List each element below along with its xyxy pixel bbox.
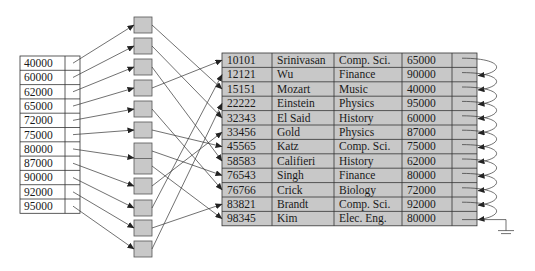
record-name: Einstein — [277, 97, 315, 109]
record-id: 83821 — [227, 198, 256, 210]
record-name: Kim — [277, 212, 298, 224]
bucket — [134, 101, 152, 117]
record-name: El Said — [277, 112, 311, 124]
record-dept: Music — [339, 83, 368, 95]
index-key: 75000 — [24, 129, 53, 141]
bucket — [134, 59, 152, 75]
record-dept: History — [339, 112, 374, 125]
record-salary: 80000 — [407, 169, 436, 181]
instructor-file-table: 10101SrinivasanComp. Sci.6500012121WuFin… — [222, 53, 477, 226]
record-salary: 80000 — [407, 212, 436, 224]
index-key: 72000 — [24, 114, 53, 126]
record-name: Califieri — [277, 155, 315, 167]
index-key: 80000 — [24, 143, 53, 155]
bucket — [134, 220, 152, 236]
index-entry: 40000 — [24, 57, 53, 69]
record-dept: Finance — [339, 68, 375, 80]
record-id: 45565 — [227, 140, 256, 152]
index-entry: 75000 — [24, 129, 53, 141]
record-salary: 87000 — [407, 126, 436, 138]
bucket — [134, 241, 152, 257]
record-name: Gold — [277, 126, 300, 138]
record-id: 76766 — [227, 184, 256, 196]
bucket — [134, 200, 152, 216]
record-dept: Comp. Sci. — [339, 140, 391, 153]
record-salary: 75000 — [407, 140, 436, 152]
index-entry: 87000 — [24, 157, 53, 169]
bucket — [134, 17, 152, 33]
index-key: 40000 — [24, 57, 53, 69]
index-entry: 90000 — [24, 171, 53, 183]
record-dept: Elec. Eng. — [339, 212, 387, 225]
record-id: 32343 — [227, 112, 256, 124]
index-key: 92000 — [24, 186, 53, 198]
record-salary: 60000 — [407, 112, 436, 124]
index-entry: 65000 — [24, 100, 53, 112]
secondary-index-table: 4000060000620006500072000750008000087000… — [20, 56, 80, 213]
index-entry: 92000 — [24, 186, 53, 198]
index-entry: 60000 — [24, 71, 53, 83]
bucket-group — [134, 17, 152, 257]
record-id: 58583 — [227, 155, 256, 167]
record-name: Katz — [277, 140, 299, 152]
index-key: 90000 — [24, 171, 53, 183]
record-dept: Physics — [339, 97, 375, 110]
bucket — [134, 122, 152, 138]
record-salary: 92000 — [407, 198, 436, 210]
record-name: Mozart — [277, 83, 311, 95]
index-key: 95000 — [24, 200, 53, 212]
record-salary: 62000 — [407, 155, 436, 167]
record-dept: History — [339, 155, 374, 168]
record-name: Srinivasan — [277, 54, 326, 66]
record-id: 10101 — [227, 54, 256, 66]
index-key: 62000 — [24, 86, 53, 98]
index-key: 87000 — [24, 157, 53, 169]
record-salary: 95000 — [407, 97, 436, 109]
index-key: 65000 — [24, 100, 53, 112]
record-id: 12121 — [227, 68, 256, 80]
record-dept: Biology — [339, 184, 376, 197]
record-dept: Comp. Sci. — [339, 198, 391, 211]
record-id: 15151 — [227, 83, 256, 95]
record-salary: 72000 — [407, 184, 436, 196]
bucket — [134, 178, 152, 194]
record-salary: 65000 — [407, 54, 436, 66]
record-name: Singh — [277, 169, 304, 182]
index-entry: 62000 — [24, 86, 53, 98]
record-dept: Physics — [339, 126, 375, 139]
bucket — [134, 80, 152, 96]
record-name: Crick — [277, 184, 303, 196]
index-entry: 95000 — [24, 200, 53, 212]
index-key: 60000 — [24, 71, 53, 83]
bucket — [134, 38, 152, 54]
index-entry: 80000 — [24, 143, 53, 155]
record-dept: Finance — [339, 169, 375, 181]
secondary-index-diagram: 4000060000620006500072000750008000087000… — [0, 0, 535, 271]
record-salary: 90000 — [407, 68, 436, 80]
record-name: Wu — [277, 68, 293, 80]
record-id: 33456 — [227, 126, 256, 138]
bucket — [134, 143, 152, 174]
record-dept: Comp. Sci. — [339, 54, 391, 67]
record-salary: 40000 — [407, 83, 436, 95]
index-entry: 72000 — [24, 114, 53, 126]
record-id: 76543 — [227, 169, 256, 181]
record-id: 98345 — [227, 212, 256, 224]
record-id: 22222 — [227, 97, 256, 109]
record-name: Brandt — [277, 198, 309, 210]
